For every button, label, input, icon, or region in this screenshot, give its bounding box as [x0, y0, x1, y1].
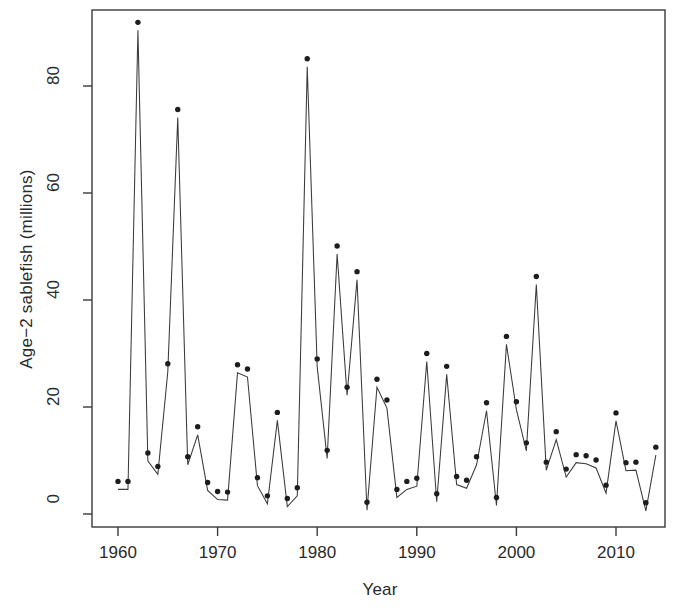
data-point	[205, 480, 210, 485]
data-point	[175, 107, 180, 112]
data-point	[504, 334, 509, 339]
data-point	[454, 474, 459, 479]
data-point	[444, 364, 449, 369]
data-point	[265, 493, 270, 498]
data-point	[484, 400, 489, 405]
data-point	[544, 459, 549, 464]
data-point	[524, 440, 529, 445]
data-point	[275, 410, 280, 415]
data-point	[155, 464, 160, 469]
data-point	[245, 366, 250, 371]
series-line	[118, 30, 656, 510]
data-point	[334, 243, 339, 248]
plot-area	[0, 0, 679, 615]
data-point	[145, 450, 150, 455]
y-tick-label: 60	[44, 173, 64, 213]
data-point	[583, 453, 588, 458]
data-point	[564, 466, 569, 471]
y-tick-label: 80	[44, 66, 64, 106]
data-point	[364, 500, 369, 505]
data-point	[464, 478, 469, 483]
data-point	[255, 475, 260, 480]
data-point	[603, 482, 608, 487]
y-tick-label: 40	[44, 280, 64, 320]
data-point	[315, 356, 320, 361]
data-point	[593, 457, 598, 462]
data-point	[225, 489, 230, 494]
data-point	[295, 485, 300, 490]
data-point	[384, 397, 389, 402]
data-point	[424, 351, 429, 356]
data-point	[494, 495, 499, 500]
data-point	[434, 491, 439, 496]
data-point	[653, 444, 658, 449]
x-tick-label: 1980	[287, 543, 347, 563]
data-point	[235, 362, 240, 367]
data-point	[185, 454, 190, 459]
chart-figure: Age−2 sablefish (millions) Year 19601970…	[0, 0, 679, 615]
data-point	[215, 489, 220, 494]
data-point	[633, 459, 638, 464]
x-tick-label: 1990	[387, 543, 447, 563]
data-point	[354, 269, 359, 274]
data-point	[404, 479, 409, 484]
x-tick-label: 2000	[486, 543, 546, 563]
data-point	[474, 454, 479, 459]
x-axis-ticks	[118, 527, 616, 536]
y-axis-ticks	[83, 86, 92, 514]
data-point	[324, 448, 329, 453]
x-tick-label: 1960	[88, 543, 148, 563]
data-point	[613, 410, 618, 415]
data-point	[344, 385, 349, 390]
y-tick-label: 20	[44, 387, 64, 427]
data-point	[623, 460, 628, 465]
data-point	[165, 361, 170, 366]
plot-frame	[92, 10, 665, 527]
x-tick-label: 2010	[586, 543, 646, 563]
data-series-line	[118, 30, 656, 510]
data-point	[285, 496, 290, 501]
plot-border	[92, 10, 665, 527]
x-tick-label: 1970	[188, 543, 248, 563]
data-point	[125, 479, 130, 484]
data-point	[554, 429, 559, 434]
data-series-points	[115, 20, 658, 506]
data-point	[514, 399, 519, 404]
data-point	[305, 56, 310, 61]
data-point	[374, 377, 379, 382]
data-point	[394, 487, 399, 492]
data-point	[414, 475, 419, 480]
data-point	[643, 500, 648, 505]
data-point	[573, 452, 578, 457]
data-point	[135, 20, 140, 25]
data-point	[534, 274, 539, 279]
data-point	[115, 479, 120, 484]
y-tick-label: 0	[44, 494, 64, 534]
data-point	[195, 424, 200, 429]
